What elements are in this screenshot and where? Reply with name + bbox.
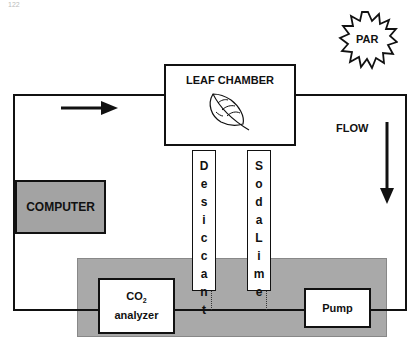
loop-line-top-left bbox=[13, 94, 165, 96]
desiccant-column: D e s i c c a n t bbox=[192, 150, 216, 291]
desiccant-letter: n bbox=[200, 283, 207, 301]
flow-down-arrow-icon bbox=[379, 122, 395, 206]
page-number: 122 bbox=[8, 1, 20, 8]
par-label: PAR bbox=[356, 33, 378, 45]
desiccant-letter: e bbox=[201, 175, 208, 193]
co2-subscript: 2 bbox=[143, 297, 147, 304]
desiccant-letter: c bbox=[201, 229, 208, 247]
loop-line-bottom-middle bbox=[173, 309, 305, 311]
flow-label: FLOW bbox=[336, 122, 368, 134]
co2-analyzer-line1: CO2 bbox=[126, 289, 146, 308]
desiccant-letter: c bbox=[201, 247, 208, 265]
co2-analyzer-box: CO2 analyzer bbox=[98, 278, 175, 334]
soda-lime-letter: a bbox=[256, 211, 263, 229]
pump-box: Pump bbox=[304, 288, 371, 328]
desiccant-letter: s bbox=[201, 193, 208, 211]
desiccant-letter: t bbox=[202, 301, 206, 319]
soda-lime-letter: S bbox=[255, 157, 263, 175]
flow-right-arrow-icon bbox=[61, 100, 119, 116]
loop-line-bottom-right bbox=[369, 309, 407, 311]
desiccant-letter: D bbox=[200, 157, 209, 175]
co2-analyzer-line2: analyzer bbox=[114, 308, 158, 323]
leaf-chamber: LEAF CHAMBER bbox=[164, 64, 296, 146]
soda-lime-letter: i bbox=[257, 247, 260, 265]
soda-lime-letter: L bbox=[255, 229, 262, 247]
pump-label: Pump bbox=[322, 302, 353, 314]
soda-lime-letter: d bbox=[255, 193, 262, 211]
soda-lime-letter: o bbox=[255, 175, 262, 193]
desiccant-connector bbox=[211, 290, 212, 310]
desiccant-letter: a bbox=[201, 265, 208, 283]
loop-line-bottom-left bbox=[13, 309, 99, 311]
soda-lime-letter: m bbox=[254, 265, 265, 283]
leaf-chamber-label: LEAF CHAMBER bbox=[166, 74, 294, 86]
leaf-icon bbox=[205, 90, 255, 132]
loop-line-right bbox=[405, 94, 407, 311]
desiccant-letter: i bbox=[202, 211, 205, 229]
co2-text: CO bbox=[126, 290, 143, 302]
soda-lime-column: S o d a L i m e bbox=[247, 150, 271, 291]
computer-label: COMPUTER bbox=[26, 200, 95, 214]
computer-box: COMPUTER bbox=[15, 180, 106, 234]
soda-lime-letter: e bbox=[256, 283, 263, 301]
soda-lime-connector bbox=[266, 290, 267, 310]
loop-line-top-right bbox=[294, 94, 407, 96]
